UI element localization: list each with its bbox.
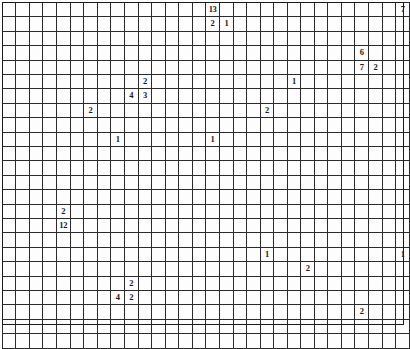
grid-cell[interactable] <box>219 46 233 60</box>
grid-cell[interactable] <box>192 247 205 261</box>
grid-cell[interactable] <box>138 103 152 117</box>
grid-cell[interactable] <box>111 204 125 218</box>
grid-cell[interactable] <box>219 60 233 74</box>
grid-cell[interactable] <box>341 334 354 348</box>
grid-cell[interactable] <box>260 75 274 89</box>
grid-cell[interactable] <box>315 262 328 276</box>
grid-cell[interactable] <box>247 175 260 189</box>
grid-cell[interactable] <box>274 276 287 290</box>
grid-cell[interactable] <box>165 89 178 103</box>
grid-cell[interactable] <box>70 319 83 333</box>
grid-cell[interactable] <box>328 3 341 17</box>
grid-cell[interactable] <box>355 3 369 17</box>
grid-cell-value[interactable]: 1 <box>206 132 220 146</box>
grid-cell[interactable] <box>396 262 410 276</box>
grid-cell[interactable] <box>396 219 410 233</box>
grid-cell[interactable] <box>355 147 369 161</box>
grid-cell[interactable] <box>274 132 287 146</box>
grid-cell[interactable] <box>165 132 178 146</box>
grid-cell[interactable] <box>260 219 274 233</box>
grid-cell[interactable] <box>192 233 205 247</box>
grid-cell[interactable] <box>219 103 233 117</box>
grid-cell[interactable] <box>192 190 205 204</box>
grid-cell[interactable] <box>247 46 260 60</box>
grid-cell[interactable] <box>179 31 192 45</box>
grid-cell[interactable] <box>70 291 83 305</box>
grid-cell[interactable] <box>301 46 315 60</box>
grid-cell[interactable] <box>192 132 205 146</box>
grid-cell[interactable] <box>16 204 29 218</box>
grid-cell[interactable] <box>396 89 410 103</box>
grid-cell[interactable] <box>192 334 205 348</box>
grid-cell[interactable] <box>396 204 410 218</box>
grid-cell[interactable] <box>233 3 246 17</box>
grid-cell[interactable] <box>233 219 246 233</box>
grid-cell[interactable] <box>70 161 83 175</box>
grid-cell[interactable] <box>111 175 125 189</box>
grid-cell[interactable] <box>16 132 29 146</box>
grid-cell[interactable] <box>192 319 205 333</box>
grid-cell[interactable] <box>219 219 233 233</box>
grid-cell[interactable] <box>84 75 98 89</box>
grid-cell[interactable] <box>43 204 56 218</box>
grid-cell[interactable] <box>274 262 287 276</box>
grid-cell[interactable] <box>382 161 395 175</box>
grid-cell[interactable] <box>97 190 110 204</box>
grid-cell[interactable] <box>16 89 29 103</box>
grid-cell[interactable] <box>355 75 369 89</box>
grid-cell[interactable] <box>341 233 354 247</box>
grid-cell[interactable] <box>247 132 260 146</box>
grid-cell[interactable] <box>43 75 56 89</box>
grid-cell[interactable] <box>43 276 56 290</box>
grid-cell[interactable] <box>355 262 369 276</box>
grid-cell[interactable] <box>152 204 165 218</box>
grid-cell[interactable] <box>179 276 192 290</box>
grid-cell[interactable] <box>382 132 395 146</box>
grid-cell[interactable] <box>179 175 192 189</box>
grid-cell[interactable] <box>287 3 301 17</box>
grid-cell[interactable] <box>247 262 260 276</box>
grid-cell[interactable] <box>29 46 42 60</box>
grid-cell[interactable] <box>111 3 125 17</box>
grid-cell[interactable] <box>152 17 165 31</box>
grid-cell[interactable] <box>301 75 315 89</box>
grid-cell[interactable] <box>315 319 328 333</box>
grid-cell[interactable] <box>56 60 70 74</box>
grid-cell[interactable] <box>382 262 395 276</box>
grid-cell[interactable] <box>369 132 383 146</box>
grid-cell[interactable] <box>84 89 98 103</box>
grid-cell[interactable] <box>56 147 70 161</box>
grid-cell[interactable] <box>396 276 410 290</box>
grid-cell-value[interactable]: 3 <box>138 89 152 103</box>
grid-cell[interactable] <box>29 31 42 45</box>
grid-cell[interactable] <box>219 334 233 348</box>
grid-cell[interactable] <box>260 147 274 161</box>
grid-cell[interactable] <box>138 190 152 204</box>
grid-cell[interactable] <box>206 147 220 161</box>
grid-cell[interactable] <box>3 175 16 189</box>
grid-cell[interactable] <box>369 46 383 60</box>
grid-cell[interactable] <box>341 46 354 60</box>
grid-cell[interactable] <box>355 161 369 175</box>
grid-cell[interactable] <box>84 319 98 333</box>
grid-cell[interactable] <box>138 204 152 218</box>
grid-cell[interactable] <box>165 60 178 74</box>
grid-cell[interactable] <box>260 233 274 247</box>
grid-cell[interactable] <box>16 276 29 290</box>
grid-cell[interactable] <box>16 219 29 233</box>
grid-cell[interactable] <box>29 118 42 132</box>
grid-cell[interactable] <box>260 31 274 45</box>
grid-cell[interactable] <box>396 46 410 60</box>
grid-cell-value[interactable]: 4 <box>111 291 125 305</box>
grid-cell[interactable] <box>206 60 220 74</box>
grid-cell[interactable] <box>206 219 220 233</box>
grid-cell[interactable] <box>70 75 83 89</box>
grid-cell[interactable] <box>233 147 246 161</box>
grid-cell[interactable] <box>192 75 205 89</box>
grid-cell[interactable] <box>328 276 341 290</box>
grid-cell[interactable] <box>233 75 246 89</box>
grid-cell[interactable] <box>70 247 83 261</box>
grid-cell[interactable] <box>97 319 110 333</box>
grid-cell[interactable] <box>124 233 138 247</box>
grid-cell[interactable] <box>138 247 152 261</box>
